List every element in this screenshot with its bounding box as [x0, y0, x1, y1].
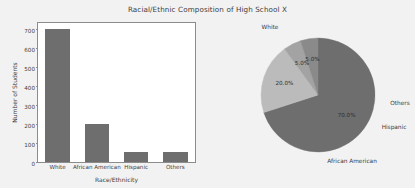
bar-chart-xtick-label: Hispanic — [124, 165, 148, 171]
bar-chart-bar — [45, 29, 69, 162]
bar-chart-bar — [85, 124, 109, 162]
pie-slice-percent-label: 20.0% — [275, 81, 293, 87]
pie-plot-area — [260, 37, 376, 153]
bar-chart-bar — [163, 152, 187, 162]
pie-slice-category-label: Others — [390, 101, 409, 107]
pie-slice-category-label: White — [262, 25, 279, 31]
bar-chart-bar — [124, 152, 148, 162]
bar-chart-axes: 0100200300400500600700WhiteAfrican Ameri… — [37, 22, 196, 163]
pie-svg — [260, 37, 376, 153]
bar-chart-ytick-label: 400 — [24, 86, 35, 92]
pie-chart-axes: 70.0%White20.0%African American5.0%Hispa… — [222, 16, 415, 188]
bar-chart-xtick-label: White — [49, 165, 65, 171]
figure-canvas: Racial/Ethnic Composition of High School… — [0, 0, 415, 188]
bar-chart-ytick-mark — [36, 86, 38, 87]
bar-chart-ytick-mark — [36, 67, 38, 68]
bar-chart-ytick-label: 500 — [24, 67, 35, 73]
bar-chart-xtick-label: Others — [166, 165, 185, 171]
bar-chart-ytick-label: 200 — [24, 124, 35, 130]
bar-chart-ytick-mark — [36, 29, 38, 30]
bar-chart-ytick-mark — [36, 124, 38, 125]
bar-chart-ytick-mark — [36, 162, 38, 163]
bar-chart-ytick-mark — [36, 105, 38, 106]
pie-slice-category-label: African American — [327, 159, 377, 165]
bar-chart-xtick-label: African American — [73, 165, 121, 171]
pie-slice-category-label: Hispanic — [382, 125, 407, 131]
bar-chart-ytick-mark — [36, 143, 38, 144]
bar-chart-ytick-label: 700 — [24, 29, 35, 35]
bar-plot-area: 0100200300400500600700WhiteAfrican Ameri… — [38, 23, 195, 162]
bar-chart-ytick-mark — [36, 48, 38, 49]
bar-chart-xlabel: Race/Ethnicity — [37, 176, 196, 183]
bar-chart-ytick-label: 0 — [31, 162, 35, 168]
pie-slice-percent-label: 70.0% — [338, 113, 356, 119]
bar-chart-ytick-label: 300 — [24, 105, 35, 111]
bar-chart-ytick-label: 100 — [24, 143, 35, 149]
pie-slice-percent-label: 5.0% — [305, 57, 319, 63]
bar-chart-ylabel: Number of Students — [11, 22, 22, 163]
bar-chart-ytick-label: 600 — [24, 48, 35, 54]
figure-title: Racial/Ethnic Composition of High School… — [0, 5, 415, 14]
